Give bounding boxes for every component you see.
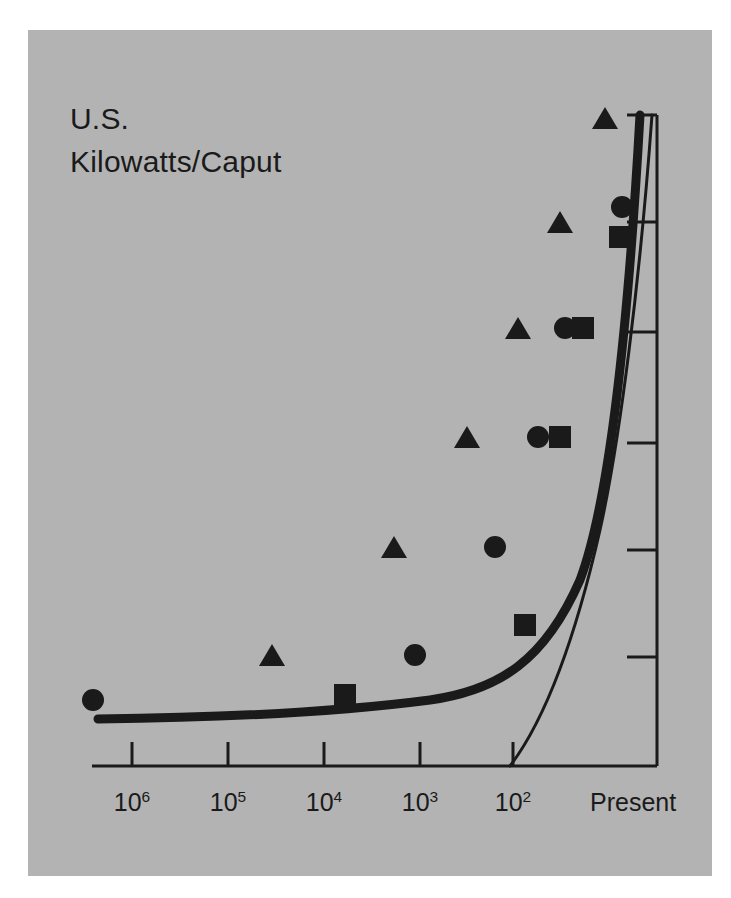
tick-mantissa: 10	[402, 788, 430, 816]
x-axis-tick-label: 103	[402, 788, 438, 817]
tick-exponent: 2	[523, 788, 532, 805]
x-axis-tick-label: 105	[210, 788, 246, 817]
figure-canvas: U.S. Kilowatts/Caput 106105104103102Pres…	[0, 0, 731, 898]
chart-title-block: U.S. Kilowatts/Caput	[70, 98, 281, 183]
chart-title-line-1: U.S.	[70, 98, 281, 141]
tick-mantissa: 10	[210, 788, 238, 816]
x-axis-tick-label: 102	[495, 788, 531, 817]
x-axis-label-present: Present	[590, 788, 676, 817]
chart-title-line-2: Kilowatts/Caput	[70, 141, 281, 184]
tick-exponent: 4	[334, 788, 343, 805]
tick-mantissa: 10	[114, 788, 142, 816]
tick-exponent: 3	[430, 788, 439, 805]
x-axis-tick-label: 104	[306, 788, 342, 817]
tick-exponent: 6	[142, 788, 151, 805]
tick-mantissa: 10	[495, 788, 523, 816]
tick-exponent: 5	[238, 788, 247, 805]
x-axis-tick-label: 106	[114, 788, 150, 817]
tick-mantissa: 10	[306, 788, 334, 816]
